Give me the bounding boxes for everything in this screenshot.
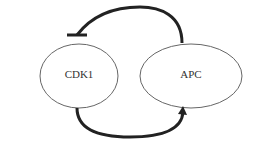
- inhibition-edge: [77, 7, 182, 43]
- node-cdk1-label: CDK1: [59, 68, 99, 80]
- node-apc-label: APC: [171, 68, 211, 80]
- activation-edge: [77, 108, 183, 137]
- feedback-diagram: [0, 0, 254, 146]
